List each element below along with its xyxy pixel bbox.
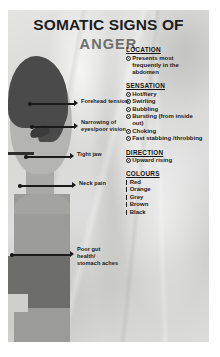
list-item-label: Grey — [130, 194, 204, 201]
leader-arrowhead — [70, 153, 74, 159]
list-item: Brown — [126, 201, 204, 208]
annotation-label: Forehead tension — [81, 98, 128, 105]
figure-shoulder — [14, 194, 70, 214]
list-item: Black — [126, 209, 204, 216]
leader-stroke — [26, 156, 70, 157]
leader-arrowhead — [70, 251, 74, 257]
list-item-label: Bubbling — [132, 106, 204, 113]
spiral-bullet-icon — [126, 114, 131, 119]
annotation-label: Poor gut health/ stomach aches — [77, 246, 118, 266]
leader-arrowhead — [72, 182, 76, 188]
list-item-label: Upward rising — [132, 157, 204, 164]
list-item: Bubbling — [126, 106, 204, 113]
list-item: Grey — [126, 194, 204, 201]
list-item: Bursting (from inside out) — [126, 113, 204, 127]
section-direction: DIRECTION Upward rising — [126, 149, 204, 165]
leader-stroke — [30, 103, 74, 104]
figure-abdomen-notch — [8, 294, 28, 312]
leader-line — [18, 181, 76, 191]
annotation-label: Tight jaw — [77, 151, 102, 158]
section-heading: COLOURS — [126, 170, 204, 177]
annotation-label: Neck pain — [79, 180, 106, 187]
spiral-bullet-icon — [126, 92, 131, 97]
tick-bullet-icon — [126, 202, 127, 207]
spiral-bullet-icon — [126, 158, 131, 163]
tick-bullet-icon — [126, 180, 127, 185]
list-item: Swirling — [126, 98, 204, 105]
spiral-bullet-icon — [126, 107, 131, 112]
leader-arrowhead — [74, 100, 78, 106]
leader-line — [30, 122, 78, 132]
leader-stroke — [32, 126, 74, 127]
tick-bullet-icon — [126, 195, 127, 200]
list-item-label: Bursting (from inside out) — [132, 113, 204, 127]
section-heading: LOCATION — [126, 46, 204, 53]
list-item: Fast stabbing /throbbing — [126, 135, 204, 142]
list-item-label: Brown — [130, 201, 204, 208]
list-item-label: Fast stabbing /throbbing — [132, 135, 204, 142]
symptom-sections-column: LOCATION Presents most frequently in the… — [126, 46, 204, 222]
spiral-bullet-icon — [126, 56, 131, 61]
poster-canvas: SOMATIC SIGNS OF ANGER Forehead tension — [8, 10, 209, 342]
spiral-bullet-icon — [126, 99, 131, 104]
list-item-label: Black — [130, 209, 204, 216]
annotation-label: Narrowing of eyes/poor vision — [81, 119, 126, 133]
leader-arrowhead — [74, 123, 78, 129]
tick-bullet-icon — [126, 210, 127, 215]
list-item-label: Orange — [130, 186, 204, 193]
list-item-label: Red — [130, 179, 204, 186]
leader-line — [28, 99, 78, 109]
leader-line — [10, 250, 74, 260]
list-item: Upward rising — [126, 157, 204, 164]
section-sensation: SENSATION Hot/fiery Swirling Bubbling Bu… — [126, 82, 204, 142]
spiral-bullet-icon — [126, 136, 131, 141]
leader-stroke — [20, 185, 72, 186]
list-item: Choking — [126, 128, 204, 135]
list-item: Red — [126, 179, 204, 186]
list-item: Hot/fiery — [126, 91, 204, 98]
section-heading: DIRECTION — [126, 149, 204, 156]
tick-bullet-icon — [126, 187, 127, 192]
spiral-bullet-icon — [126, 129, 131, 134]
list-item: Orange — [126, 186, 204, 193]
section-colours: COLOURS Red Orange Grey Brown Black — [126, 170, 204, 216]
page-title: SOMATIC SIGNS OF — [8, 16, 209, 33]
leader-stroke — [12, 254, 70, 255]
list-item-label: Hot/fiery — [132, 91, 204, 98]
list-item-label: Swirling — [132, 98, 204, 105]
section-location: LOCATION Presents most frequently in the… — [126, 46, 204, 76]
list-item-label: Presents most frequently in the abdomen — [132, 55, 204, 77]
leader-line — [24, 152, 74, 162]
list-item: Presents most frequently in the abdomen — [126, 55, 204, 77]
section-heading: SENSATION — [126, 82, 204, 89]
list-item-label: Choking — [132, 128, 204, 135]
